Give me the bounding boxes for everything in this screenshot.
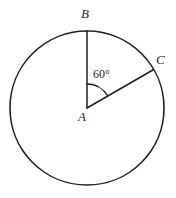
- geometry-figure: B C A 60°: [0, 0, 176, 198]
- central-angle-arc: [87, 84, 108, 96]
- circle-diagram-canvas: [0, 0, 176, 198]
- angle-measure-label: 60°: [93, 68, 110, 80]
- point-label-c: C: [156, 53, 165, 66]
- point-label-a: A: [78, 110, 86, 123]
- point-label-b: B: [81, 7, 89, 20]
